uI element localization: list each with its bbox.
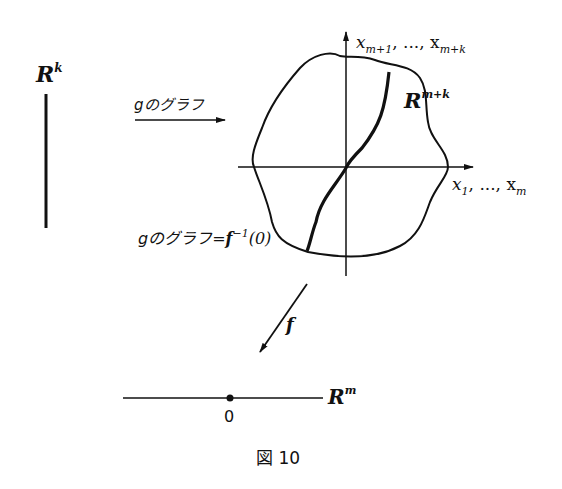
figure-caption: 図 10 bbox=[256, 448, 300, 468]
figure-10-diagram: Rk gのグラフ xm+1, ..., xm+k Rm+k x1, ..., x… bbox=[0, 0, 562, 489]
graph-curve bbox=[307, 72, 389, 251]
origin-point bbox=[227, 395, 234, 402]
rm-space: 0 Rm bbox=[123, 384, 356, 426]
map-f: f bbox=[260, 284, 307, 352]
graph-equation-label: gのグラフ=f−1(0) bbox=[138, 227, 271, 248]
down-left-arrow-icon bbox=[260, 284, 307, 352]
map-f-label: f bbox=[284, 314, 297, 335]
vertical-axis-label: xm+1, ..., xm+k bbox=[356, 32, 466, 56]
graph-arrow: gのグラフ bbox=[134, 96, 225, 120]
region-boundary bbox=[253, 53, 448, 256]
rm-label: Rm bbox=[327, 384, 356, 409]
horizontal-axis-label: x1, ..., xm bbox=[452, 174, 526, 198]
graph-arrow-label: gのグラフ bbox=[134, 96, 205, 114]
origin-label: 0 bbox=[224, 407, 234, 426]
rk-label: Rk bbox=[35, 61, 63, 87]
rk-space: Rk bbox=[35, 61, 63, 228]
